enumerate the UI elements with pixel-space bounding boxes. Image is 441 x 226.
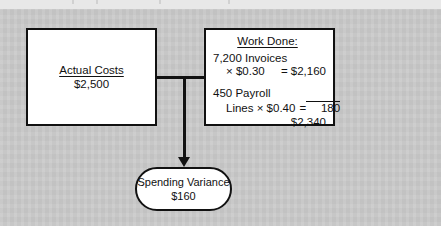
diagram-canvas: Actual Costs $2,500 Work Done: 7,200 Inv… <box>0 0 441 226</box>
spending-variance-node: Spending Variance $160 <box>135 167 232 211</box>
scan-artifact <box>228 0 230 4</box>
invoices-equals: = <box>281 65 288 77</box>
invoices-quantity-label: 7,200 Invoices <box>213 52 287 65</box>
scan-top-strip <box>0 0 441 9</box>
payroll-amount: 180 <box>306 101 340 115</box>
calc-group-payroll: 450 Payroll Lines × $0.40 = 180 <box>213 87 326 115</box>
calc-line-lead: 7,200 Invoices <box>213 52 326 65</box>
actual-costs-box: Actual Costs $2,500 <box>26 28 157 126</box>
work-done-title-text: Work Done: <box>237 35 298 47</box>
work-done-box: Work Done: 7,200 Invoices × $0.30 = $2,1… <box>204 28 335 126</box>
work-done-total: $2,340 <box>213 116 326 129</box>
calc-line-lead: 450 Payroll <box>213 87 326 100</box>
actual-costs-amount: $2,500 <box>74 77 109 91</box>
calc-line-rate: Lines × $0.40 = 180 <box>213 100 326 115</box>
scan-artifact <box>72 0 74 4</box>
spending-variance-label: Spending Variance <box>137 175 229 189</box>
scan-artifact <box>96 0 98 4</box>
work-done-total-amount: $2,340 <box>291 116 326 129</box>
calc-line-rate: × $0.30 = $2,160 <box>213 65 326 78</box>
connector-vertical-line <box>183 76 186 160</box>
work-done-title: Work Done: <box>213 35 326 47</box>
payroll-quantity-label: 450 Payroll <box>213 87 271 100</box>
scan-artifact <box>159 0 161 4</box>
arrow-down-icon <box>178 157 190 167</box>
actual-costs-label: Actual Costs <box>59 63 124 77</box>
payroll-rate: Lines × $0.40 <box>213 102 295 115</box>
calc-group-invoices: 7,200 Invoices × $0.30 = $2,160 <box>213 52 326 78</box>
payroll-equals: = <box>299 102 306 115</box>
invoices-rate: × $0.30 <box>213 65 265 78</box>
connector-horizontal-line <box>155 76 206 79</box>
invoices-extended: = $2,160 <box>281 65 326 78</box>
spending-variance-amount: $160 <box>171 189 195 203</box>
invoices-amount: $2,160 <box>291 65 326 77</box>
